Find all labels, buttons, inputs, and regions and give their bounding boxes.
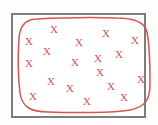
x-mark: X — [25, 57, 33, 69]
x-mark: X — [66, 82, 74, 94]
x-mark: X — [43, 45, 51, 57]
x-mark: X — [71, 56, 79, 68]
x-mark: X — [83, 95, 91, 107]
x-mark: X — [131, 34, 139, 46]
x-mark: X — [75, 36, 83, 48]
figure-container: XXXXXXXXXXXXXXXXXX — [0, 0, 158, 125]
x-mark: X — [50, 23, 58, 35]
x-mark: X — [25, 35, 33, 47]
x-mark: X — [120, 91, 128, 103]
x-mark: X — [137, 73, 145, 85]
x-mark: X — [47, 75, 55, 87]
x-mark: X — [115, 48, 123, 60]
x-mark: X — [107, 80, 115, 92]
x-mark: X — [29, 90, 37, 102]
x-mark: X — [102, 27, 110, 39]
x-mark: X — [96, 66, 104, 78]
x-mark: X — [94, 52, 102, 64]
figure-canvas: XXXXXXXXXXXXXXXXXX — [0, 0, 158, 125]
